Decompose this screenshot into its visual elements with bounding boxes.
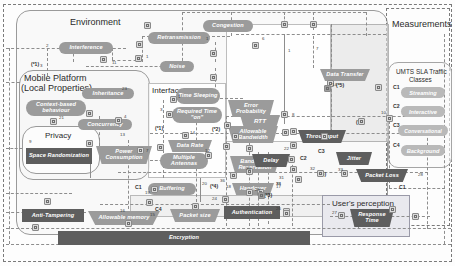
edge-line [313,36,314,68]
constraint-glyph[interactable] [86,110,93,117]
node-multiple-antennas[interactable]: Multiple Antennas [160,153,208,169]
constraint-glyph[interactable] [281,21,288,28]
constraint-glyph[interactable] [146,199,153,206]
node-space-randomization[interactable]: Space Randomization [26,148,92,164]
umts-class-pill-streaming[interactable]: Streaming [401,87,445,98]
constraint-glyph[interactable] [210,50,217,57]
node-congestion[interactable]: Congestion [203,20,253,32]
constraint-glyph[interactable] [170,96,177,103]
constraint-glyph[interactable] [358,118,365,125]
node-retransmission[interactable]: Retransmission [148,32,210,44]
constraint-glyph[interactable] [389,206,396,213]
constraint-glyph[interactable] [282,129,289,136]
constraint-glyph[interactable] [288,156,295,163]
edge-number: 12 [205,148,210,153]
umts-class-pill-background[interactable]: Background [401,145,445,156]
constraint-glyph[interactable] [135,55,142,62]
constraint-glyph[interactable] [32,224,39,231]
edge-number: 3 [40,63,42,68]
node-packet-size[interactable]: Packet size [170,209,220,222]
node-packet-loss[interactable]: Packet Loss [356,169,408,182]
zone-mobile-platform-label-1: Mobile Platform [24,73,87,83]
constraint-glyph[interactable] [136,41,143,48]
edge-number: 22 [284,146,289,151]
constraint-glyph[interactable] [144,22,151,29]
constraint-glyph[interactable] [290,142,297,149]
edge-line [47,48,48,76]
constraint-glyph[interactable] [386,115,393,122]
constraint-glyph[interactable] [182,132,189,139]
node-concurrency[interactable]: Concurrency [78,119,132,130]
constraint-glyph[interactable] [412,213,419,220]
edge-number: 23 [122,86,127,91]
constraint-glyph[interactable] [137,147,144,154]
constraint-glyph[interactable] [50,118,57,125]
constraint-glyph[interactable] [205,152,212,159]
constraint-glyph[interactable] [252,42,259,49]
umts-title-line1: UMTS SLA Traffic [396,68,447,75]
node-noise[interactable]: Noise [160,61,194,72]
constraint-glyph[interactable] [317,170,324,177]
node-time-sleeping[interactable]: Time Sleeping [176,88,220,104]
edge-number: 17 [276,184,281,189]
node-jitter[interactable]: Jitter [336,152,372,165]
constraint-glyph[interactable] [321,133,328,140]
badge-class-jitter: C3 [318,148,325,154]
umts-class-code-0: C1 [393,84,400,90]
constraint-glyph[interactable] [290,166,297,173]
edge-line [6,228,451,229]
constraint-glyph[interactable] [224,122,231,129]
constraint-glyph[interactable] [223,143,230,150]
edge-number: 6 [262,36,264,41]
constraint-glyph[interactable] [151,186,158,193]
constraint-glyph[interactable] [44,198,51,205]
umts-class-code-1: C2 [393,103,400,109]
node-anti-tampering[interactable]: Anti-Tampering [22,209,84,222]
edge-number: 14 [332,82,337,87]
constraint-glyph[interactable] [157,144,164,151]
edge-line [389,188,445,189]
constraint-glyph[interactable] [100,56,107,63]
umts-class-pill-conversational[interactable]: Conversational [398,125,448,136]
edge-number: 3 [160,107,162,112]
edge-number: 26 [276,206,281,211]
node-rtt[interactable]: RTT [240,115,280,128]
constraint-glyph[interactable] [246,145,253,152]
node-delay[interactable]: Delay [252,154,290,167]
edge-number: 1 [288,48,290,53]
footnote-mark-1b: (*1) [155,125,163,131]
constraint-glyph[interactable] [290,128,297,135]
badge-class-multiple-antennas: C2 [300,155,307,161]
constraint-glyph[interactable] [375,84,382,91]
constraint-glyph[interactable] [210,74,217,81]
constraint-glyph[interactable] [166,111,173,118]
umts-class-pill-interactive[interactable]: Interactive [401,106,445,117]
node-authentication[interactable]: Authentication [224,206,280,219]
node-interference[interactable]: Interference [59,42,113,54]
node-required-time-on[interactable]: Required Time "on" [172,107,222,123]
node-encryption[interactable]: Encryption [58,231,310,245]
node-context-based-behaviour[interactable]: Context-based behaviour [26,100,86,116]
constraint-glyph[interactable] [86,140,93,147]
edge-number: 33 [338,167,343,172]
constraint-glyph[interactable] [125,220,132,227]
constraint-glyph[interactable] [222,196,229,203]
node-error-probability[interactable]: Error Probability [228,100,274,117]
constraint-glyph[interactable] [281,111,288,118]
constraint-glyph[interactable] [232,133,239,140]
constraint-glyph[interactable] [338,212,345,219]
constraint-glyph[interactable] [246,189,253,196]
zone-measurements-label: Measurements [392,19,452,29]
constraint-glyph[interactable] [310,21,317,28]
node-response-time[interactable]: Response Time [350,209,394,227]
constraint-glyph[interactable] [283,210,290,217]
edge-line [142,36,143,62]
edge-number: 15 [150,212,155,217]
constraint-glyph[interactable] [258,192,265,199]
constraint-glyph[interactable] [192,203,199,210]
constraint-glyph[interactable] [230,172,237,179]
edge-number: 24 [212,196,217,201]
constraint-glyph[interactable] [295,176,302,183]
constraint-glyph[interactable] [115,117,122,124]
constraint-glyph[interactable] [324,85,331,92]
